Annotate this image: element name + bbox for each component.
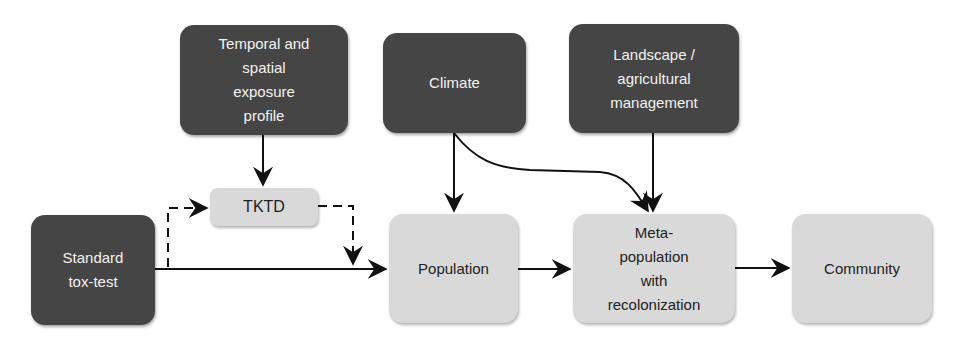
node-label: Population (418, 257, 489, 281)
node-label: Community (824, 257, 900, 281)
arrow-climate-to-metapop (454, 133, 648, 211)
arrow-standard-to-tktd-dashed (168, 208, 207, 267)
node-tktd: TKTD (210, 188, 318, 226)
node-label: Standard tox-test (63, 246, 124, 294)
node-label: Temporal and spatial exposure profile (219, 32, 310, 128)
node-label: Climate (429, 71, 480, 95)
node-label: Landscape / agricultural management (610, 43, 698, 115)
node-metapopulation: Meta- population with recolonization (573, 214, 735, 323)
node-temporal-exposure-profile: Temporal and spatial exposure profile (180, 25, 348, 135)
node-label: Meta- population with recolonization (608, 221, 701, 317)
node-standard-tox-test: Standard tox-test (31, 215, 155, 325)
node-community: Community (792, 214, 932, 323)
node-climate: Climate (383, 33, 526, 133)
node-landscape-management: Landscape / agricultural management (569, 24, 739, 133)
node-population: Population (389, 214, 518, 323)
arrow-tktd-to-population-dashed (318, 206, 353, 264)
node-label: TKTD (243, 195, 285, 219)
